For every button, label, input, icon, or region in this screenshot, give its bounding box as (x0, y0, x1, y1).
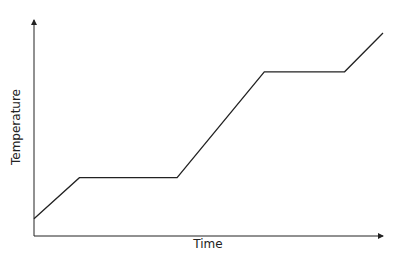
x-axis-label: Time (178, 237, 238, 251)
y-axis-label: Temperature (9, 89, 23, 165)
temperature-line (34, 33, 383, 219)
chart-canvas (0, 0, 399, 267)
